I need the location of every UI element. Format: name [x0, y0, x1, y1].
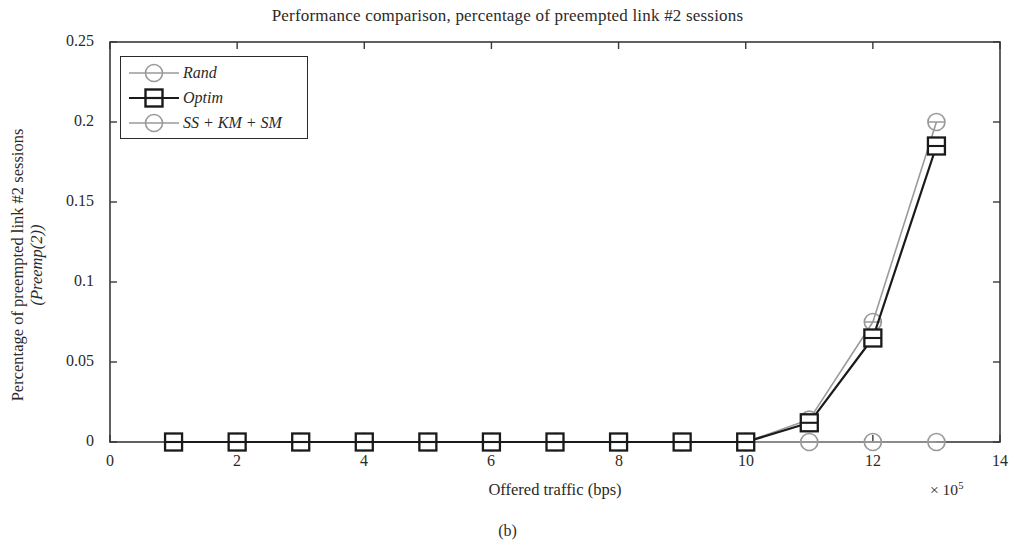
series-line-optim [174, 146, 937, 442]
legend-marker-circle-icon-2 [127, 111, 181, 135]
legend-marker-square-icon [127, 86, 181, 110]
legend-label-ss-km-sm: SS + KM + SM [181, 114, 282, 132]
series-line-ss-km-sm [174, 122, 937, 442]
chart-legend: Rand Optim SS + KM + SM [120, 56, 308, 139]
legend-label-rand: Rand [181, 64, 217, 82]
legend-marker-circle-icon [127, 61, 181, 85]
legend-entry-ss-km-sm: SS + KM + SM [127, 110, 301, 135]
legend-entry-rand: Rand [127, 60, 301, 85]
figure-panel: Performance comparison, percentage of pr… [0, 0, 1015, 559]
legend-label-optim: Optim [181, 89, 223, 107]
legend-entry-optim: Optim [127, 85, 301, 110]
